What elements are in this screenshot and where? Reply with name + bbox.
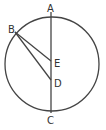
label-b: B: [8, 24, 15, 35]
label-a: A: [47, 3, 54, 14]
geometry-diagram: A B E D C: [0, 0, 106, 130]
label-e: E: [54, 58, 60, 69]
label-c: C: [47, 115, 54, 126]
circle: [5, 17, 99, 111]
label-d: D: [54, 78, 62, 89]
